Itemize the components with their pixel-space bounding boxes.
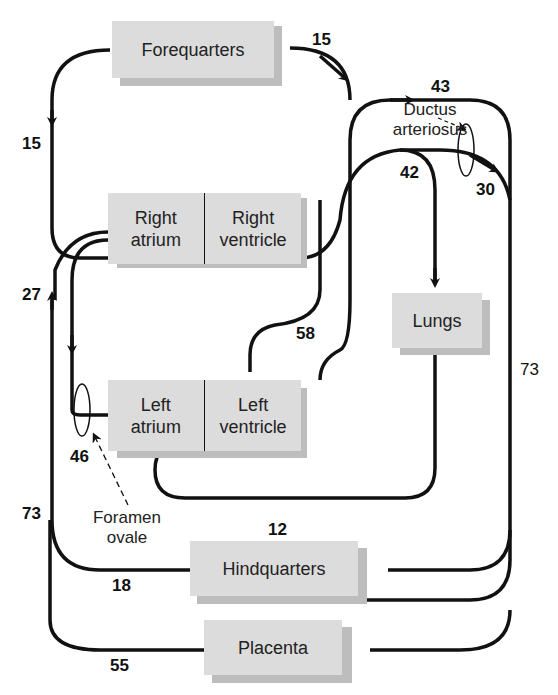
placenta-label: Placenta [238,637,308,659]
flow-ivc-return: 73 [22,504,41,524]
flow-foramen: 46 [70,447,89,467]
node-forequarters: Forequarters [112,21,274,78]
flow-descending-aorta: 73 [520,360,539,380]
flow-hindquarters-return: 18 [112,576,131,596]
node-left-ventricle: Leftventricle [205,380,301,451]
flow-aorta-arch: 43 [431,77,450,97]
right-atrium-label-1: Right [131,207,181,229]
ductus-line-2: arteriosus [375,120,485,140]
foramen-ellipse [74,384,90,436]
node-placenta: Placenta [204,620,342,675]
flow-12: 12 [268,520,287,540]
flow-ductus: 30 [476,180,495,200]
node-right-atrium: Rightatrium [108,193,204,264]
flow-forequarters-in: 15 [22,134,41,154]
hindquarters-label: Hindquarters [222,558,325,580]
flow-return-27: 27 [22,285,41,305]
node-left-atrium: Leftatrium [108,380,204,451]
foramen-line-2: ovale [82,528,172,548]
flow-placenta-return: 55 [110,656,129,676]
fetal-circulation-diagram: Forequarters Rightatrium Rightventricle … [0,0,558,695]
foramen-line-1: Foramen [82,508,172,528]
node-left-heart: Leftatrium Leftventricle [108,380,301,451]
left-atrium-label-1: Left [131,394,181,416]
flow-pulmonary-trunk: 42 [400,163,419,183]
flow-forequarters-out: 15 [312,30,331,50]
lungs-label: Lungs [412,310,461,332]
foramen-ovale-label: Foramen ovale [82,508,172,548]
left-ventricle-label-2: ventricle [220,416,287,438]
left-ventricle-label-1: Left [220,394,287,416]
node-right-ventricle: Rightventricle [205,193,301,264]
forequarters-label: Forequarters [141,39,244,61]
node-right-heart: Rightatrium Rightventricle [108,193,301,264]
right-atrium-label-2: atrium [131,229,181,251]
node-lungs: Lungs [392,293,482,348]
right-ventricle-label-1: Right [220,207,287,229]
left-atrium-label-2: atrium [131,416,181,438]
flow-left-ventricle-out: 58 [296,324,315,344]
right-ventricle-label-2: ventricle [220,229,287,251]
ductus-line-1: Ductus [375,100,485,120]
node-hindquarters: Hindquarters [190,541,358,596]
ductus-arteriosus-label: Ductus arteriosus [375,100,485,140]
